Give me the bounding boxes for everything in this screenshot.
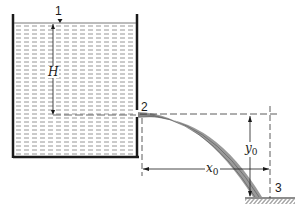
x0-label: x0 (205, 162, 220, 177)
water-body (15, 23, 136, 157)
x0-var: x (206, 161, 213, 175)
diagram-svg (0, 0, 305, 213)
y0-var: y (245, 141, 252, 155)
diagram-canvas: 1 H 2 3 x0 y0 (0, 0, 305, 213)
y0-sub: 0 (252, 147, 258, 157)
y0-label: y0 (244, 142, 259, 157)
ground (245, 198, 295, 204)
x0-sub: 0 (213, 167, 219, 177)
point1-marker (58, 19, 63, 23)
point2-label: 2 (141, 101, 148, 113)
point3-label: 3 (275, 182, 282, 194)
head-label: H (47, 66, 59, 78)
point1-label: 1 (55, 5, 62, 17)
